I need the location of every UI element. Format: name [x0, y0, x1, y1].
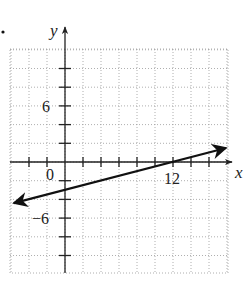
problem-bullet: [1, 30, 4, 33]
y-axis-label: y: [48, 21, 58, 40]
coordinate-plane: y x 0 12 6 −6: [0, 0, 247, 284]
x-axis-label: x: [234, 163, 243, 182]
origin-label: 0: [46, 166, 54, 183]
x-tick-label-12: 12: [164, 170, 180, 187]
y-tick-label-neg6: −6: [32, 210, 49, 227]
y-tick-label-6: 6: [42, 98, 50, 115]
